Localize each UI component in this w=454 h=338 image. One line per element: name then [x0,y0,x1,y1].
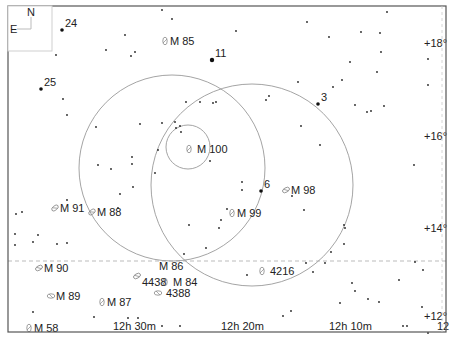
star-dot [66,114,68,116]
star-dot [306,21,308,23]
star-dot [131,156,133,158]
star-dot [179,325,181,327]
star-dot [422,269,424,271]
star-dot [32,241,34,243]
star-dot [414,261,416,263]
star-dot [32,311,34,313]
star-dot [66,242,68,244]
star-dot [131,163,133,165]
star-dot [402,325,404,327]
star-dot [62,98,64,100]
star-dot [332,86,334,88]
star-dot [174,121,176,123]
star-dot [66,199,68,201]
star-dot [339,302,341,304]
star-dot [209,160,211,162]
numbered-star-label: 25 [44,76,56,88]
galaxy-label: M 89 [56,290,80,302]
star-dot [282,315,284,317]
numbered-star-dot[interactable] [259,189,263,193]
star-dot [344,227,346,229]
star-dot [175,127,177,129]
galaxy-label: M 85 [170,35,194,47]
star-dot [290,310,292,312]
star-dot [56,243,58,245]
star-dot [421,306,423,308]
star-dot [360,31,362,33]
star-dot [406,325,408,327]
star-dot [55,54,57,56]
galaxy-label: M 100 [197,143,228,155]
star-dot [220,219,222,221]
star-dot [343,243,345,245]
star-chart: 24251136 M 85M 100M 98M 99M 91M 88M 90M … [0,0,454,338]
star-dot [349,61,351,63]
star-dot [188,224,190,226]
star-dot [379,32,381,34]
numbered-star-label: 6 [264,178,270,190]
star-dot [354,290,356,292]
star-dot [265,99,267,101]
star-dot [134,51,136,53]
galaxy-label: 4388 [166,287,190,299]
numbered-star-dot[interactable] [60,28,64,32]
star-dot [154,172,156,174]
star-dot [354,104,356,106]
star-dot [341,79,343,81]
star-dot [398,279,400,281]
star-dot [97,164,99,166]
galaxy-label: M 86 [159,260,183,272]
dec-label: +14° [424,222,447,234]
star-dot [376,71,378,73]
star-dot [171,18,173,20]
star-dot [110,168,112,170]
galaxy-label: M 98 [291,184,315,196]
galaxy-label: M 87 [107,296,131,308]
ra-label: 12h 20m [221,320,264,332]
star-dot [241,189,243,191]
star-dot [199,101,201,103]
star-dot [226,208,228,210]
star-dot [297,81,299,83]
dec-label: +18° [424,37,447,49]
star-dot [124,34,126,36]
numbered-star-dot[interactable] [316,102,320,106]
numbered-star-label: 3 [321,91,327,103]
chart-background [0,0,454,338]
galaxy-label: 4216 [270,265,294,277]
star-dot [300,125,302,127]
star-dot [179,125,181,127]
star-dot [386,11,388,13]
star-dot [212,102,214,104]
star-dot [366,111,368,113]
star-dot [139,123,141,125]
star-dot [205,247,207,249]
star-dot [312,271,314,273]
star-dot [328,36,330,38]
star-dot [380,51,382,53]
star-dot [137,317,139,319]
star-dot [303,209,305,211]
star-dot [378,301,380,303]
compass-rose: N E [8,6,52,51]
ra-label: 12h 10m [329,320,372,332]
star-dot [324,262,326,264]
star-dot [241,181,243,183]
star-dot [319,144,321,146]
numbered-star-dot[interactable] [39,87,43,91]
star-dot [215,101,217,103]
star-dot [161,122,163,124]
star-dot [95,126,97,128]
star-dot [15,213,17,215]
star-dot [383,105,385,107]
star-dot [14,233,16,235]
numbered-star-dot[interactable] [210,58,214,62]
star-dot [185,101,187,103]
star-dot [157,149,159,151]
compass-north-label: N [27,6,35,18]
star-dot [343,224,345,226]
star-dot [413,164,415,166]
star-dot [268,95,270,97]
ra-label: 12h 30m [113,320,156,332]
galaxy-label: M 99 [237,207,261,219]
